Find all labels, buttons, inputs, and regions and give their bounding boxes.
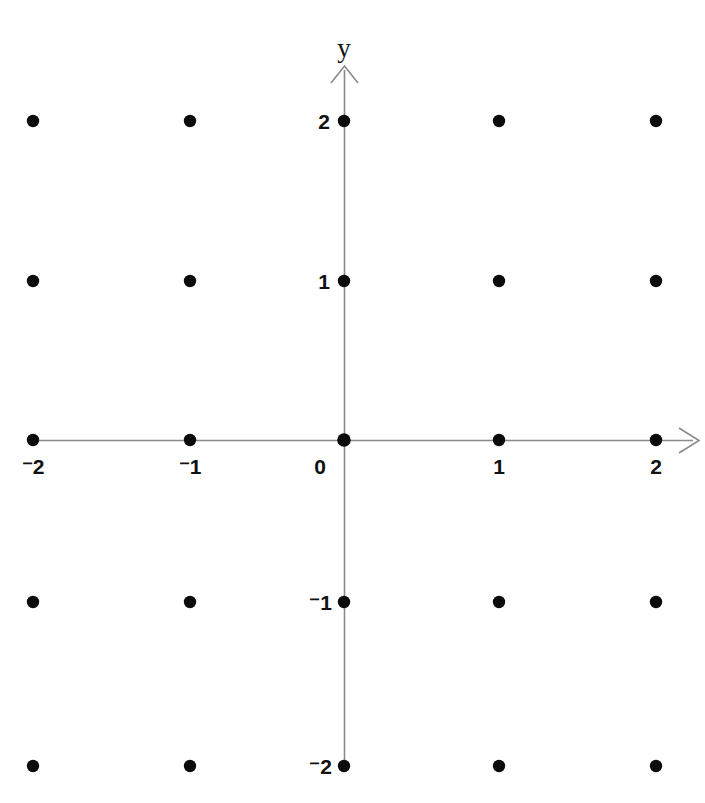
x-tick-label-neg2: ⁻2 <box>22 455 45 478</box>
lattice-point <box>184 434 196 446</box>
lattice-point <box>650 434 662 446</box>
lattice-point <box>493 596 505 608</box>
lattice-point <box>493 115 505 127</box>
x-tick-label-zero: 0 <box>314 455 326 478</box>
lattice-point <box>27 434 39 446</box>
lattice-point <box>493 760 505 772</box>
lattice-point <box>493 275 505 287</box>
lattice-point <box>27 760 39 772</box>
y-tick-label-1: 1 <box>318 270 330 293</box>
y-axis-label: y <box>337 33 351 63</box>
y-tick-label-neg1: ⁻1 <box>309 591 332 614</box>
lattice-point <box>184 275 196 287</box>
lattice-point <box>338 115 350 127</box>
lattice-point <box>184 596 196 608</box>
lattice-point <box>338 275 350 287</box>
lattice-point <box>27 115 39 127</box>
lattice-point <box>650 275 662 287</box>
lattice-point <box>338 596 350 608</box>
lattice-point <box>27 275 39 287</box>
y-tick-label-neg2: ⁻2 <box>309 755 332 778</box>
x-tick-label-2: 2 <box>650 455 662 478</box>
lattice-point <box>184 760 196 772</box>
lattice-point <box>184 115 196 127</box>
lattice-point <box>650 760 662 772</box>
x-tick-label-neg1: ⁻1 <box>179 455 202 478</box>
lattice-point <box>650 115 662 127</box>
lattice-point <box>650 596 662 608</box>
plot-svg: ⁻2 ⁻1 0 1 2 2 1 ⁻1 ⁻2 y <box>0 0 705 803</box>
y-tick-label-2: 2 <box>318 110 330 133</box>
lattice-point <box>338 760 350 772</box>
lattice-point <box>27 596 39 608</box>
origin-point <box>337 433 351 447</box>
lattice-point <box>493 434 505 446</box>
coordinate-plane-figure: ⁻2 ⁻1 0 1 2 2 1 ⁻1 ⁻2 y <box>0 0 705 803</box>
x-tick-label-1: 1 <box>493 455 505 478</box>
